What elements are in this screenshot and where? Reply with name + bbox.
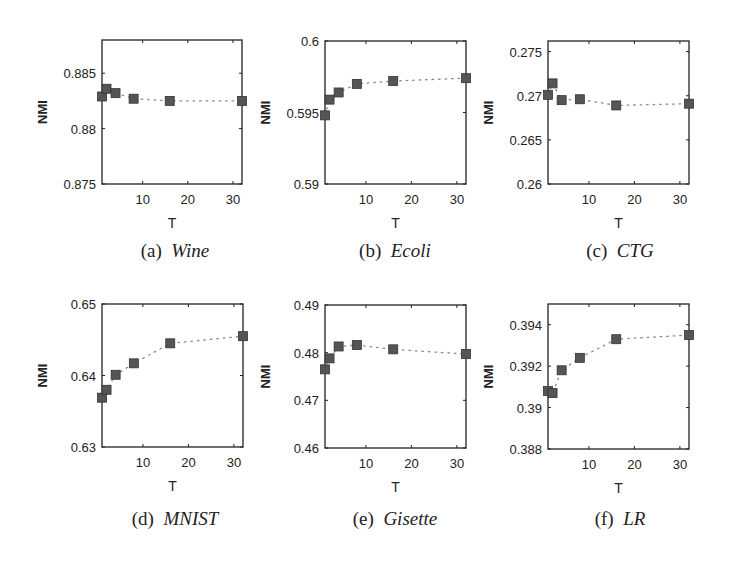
caption-dataset-name: MNIST — [162, 508, 219, 529]
x-axis-label: T — [391, 215, 400, 231]
data-point-marker — [334, 342, 343, 351]
subplot-ctg: 1020300.260.2650.270.275TNMI(c) CTG — [481, 41, 694, 262]
y-tick-label: 0.46 — [294, 441, 319, 456]
data-point-marker — [544, 90, 553, 99]
axes-frame — [325, 305, 466, 448]
caption-label: (f) — [595, 508, 623, 530]
caption-dataset-name: CTG — [617, 240, 654, 261]
y-tick-label: 0.388 — [509, 442, 542, 457]
y-tick-label: 0.27 — [517, 89, 542, 104]
data-point-marker — [462, 350, 471, 359]
caption-dataset-name: Ecoli — [390, 240, 431, 261]
data-point-marker — [165, 96, 174, 105]
x-tick-label: 20 — [627, 192, 641, 207]
x-tick-label: 10 — [359, 192, 373, 207]
x-tick-label: 30 — [450, 456, 464, 471]
data-point-marker — [111, 370, 120, 379]
y-tick-label: 0.39 — [517, 401, 542, 416]
subplot-mnist: 1020300.630.640.65TNMI(d) MNIST — [35, 297, 248, 530]
x-tick-label: 30 — [226, 192, 240, 207]
data-point-marker — [102, 84, 111, 93]
data-point-marker — [389, 345, 398, 354]
data-point-marker — [325, 354, 334, 363]
data-point-marker — [352, 341, 361, 350]
y-tick-label: 0.64 — [71, 369, 96, 384]
data-point-marker — [321, 111, 330, 120]
data-point-marker — [575, 353, 584, 362]
y-tick-label: 0.265 — [509, 133, 542, 148]
data-point-marker — [334, 88, 343, 97]
x-tick-label: 30 — [450, 192, 464, 207]
data-point-marker — [321, 365, 330, 374]
subplot-lr: 1020300.3880.390.3920.394TNMI(f) LR — [481, 304, 694, 530]
data-point-marker — [389, 77, 398, 86]
y-tick-label: 0.47 — [294, 393, 319, 408]
x-axis-label: T — [614, 480, 623, 496]
caption-dataset-name: Gisette — [383, 508, 437, 529]
x-axis-label: T — [391, 479, 400, 495]
subplot-wine: 1020300.8750.880.885TNMI(a) Wine — [35, 40, 247, 262]
subplot-caption: (e) Gisette — [353, 508, 437, 530]
data-point-marker — [462, 74, 471, 83]
caption-label: (a) — [141, 240, 172, 262]
data-point-marker — [612, 335, 621, 344]
y-tick-label: 0.59 — [294, 177, 319, 192]
axes-frame — [548, 41, 689, 184]
x-tick-label: 10 — [582, 457, 596, 472]
caption-label: (b) — [359, 240, 391, 262]
data-point-marker — [548, 389, 557, 398]
axes-frame — [102, 40, 242, 184]
y-tick-label: 0.885 — [63, 66, 96, 81]
x-tick-label: 20 — [404, 192, 418, 207]
y-tick-label: 0.65 — [71, 297, 96, 312]
x-tick-label: 20 — [181, 455, 195, 470]
caption-label: (c) — [586, 240, 617, 262]
data-point-marker — [575, 95, 584, 104]
data-point-marker — [166, 339, 175, 348]
x-tick-label: 30 — [673, 192, 687, 207]
y-tick-label: 0.394 — [509, 318, 542, 333]
data-point-marker — [685, 331, 694, 340]
caption-label: (d) — [132, 508, 164, 530]
x-tick-label: 20 — [404, 456, 418, 471]
y-tick-label: 0.63 — [71, 440, 96, 455]
x-axis-label: T — [614, 215, 623, 231]
x-tick-label: 10 — [359, 456, 373, 471]
x-tick-label: 30 — [227, 455, 241, 470]
data-point-marker — [102, 385, 111, 394]
data-point-marker — [557, 96, 566, 105]
x-axis-label: T — [168, 478, 177, 494]
data-point-marker — [325, 95, 334, 104]
axes-frame — [102, 304, 243, 447]
y-tick-label: 0.595 — [286, 106, 319, 121]
subplot-caption: (c) CTG — [586, 240, 654, 262]
y-axis-label: NMI — [35, 100, 50, 124]
x-tick-label: 10 — [136, 455, 150, 470]
x-tick-label: 20 — [627, 457, 641, 472]
y-tick-label: 0.49 — [294, 298, 319, 313]
y-tick-label: 0.26 — [517, 177, 542, 192]
y-tick-label: 0.48 — [294, 346, 319, 361]
x-tick-label: 10 — [582, 192, 596, 207]
subplot-caption: (d) MNIST — [132, 508, 220, 530]
y-axis-label: NMI — [258, 101, 273, 125]
caption-dataset-name: Wine — [171, 240, 209, 261]
y-axis-label: NMI — [481, 365, 496, 389]
data-point-marker — [111, 89, 120, 98]
y-tick-label: 0.88 — [71, 122, 96, 137]
axes-frame — [325, 41, 466, 184]
subplot-ecoli: 1020300.590.5950.6TNMI(b) Ecoli — [258, 34, 471, 262]
data-point-marker — [129, 359, 138, 368]
data-point-marker — [238, 96, 247, 105]
figure: 1020300.8750.880.885TNMI(a) Wine 1020300… — [0, 0, 730, 566]
y-tick-label: 0.275 — [509, 45, 542, 60]
caption-dataset-name: LR — [622, 508, 646, 529]
y-tick-label: 0.6 — [301, 34, 319, 49]
subplot-caption: (b) Ecoli — [359, 240, 431, 262]
y-axis-label: NMI — [481, 101, 496, 125]
x-axis-label: T — [168, 215, 177, 231]
subplot-caption: (f) LR — [595, 508, 646, 530]
data-point-marker — [685, 99, 694, 108]
data-point-marker — [612, 101, 621, 110]
data-point-marker — [557, 366, 566, 375]
